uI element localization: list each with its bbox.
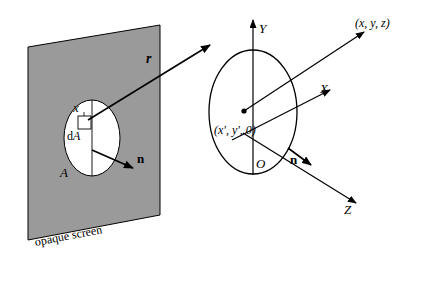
label-origin-normal: n (290, 153, 297, 166)
label-x-coordinate: x (73, 101, 79, 114)
area-element-dA (78, 116, 91, 129)
label-origin-O: O (256, 157, 265, 170)
label-axis-Y: Y (259, 22, 266, 35)
label-dA: dA (67, 130, 80, 142)
ray-to-field-point (244, 32, 364, 111)
label-screen-normal: n (137, 152, 144, 165)
figure-canvas: x dA A n r opaque screen Y X Z O n (x', … (0, 0, 425, 283)
opaque-screen-group (28, 25, 210, 240)
label-aperture-area: A (60, 166, 68, 179)
coordinate-system-group (209, 20, 364, 203)
label-field-point: (x, y, z) (355, 17, 390, 29)
label-source-point: (x', y', 0) (214, 124, 256, 136)
label-axis-X: X (320, 82, 328, 95)
label-ray-r: r (146, 52, 151, 66)
label-axis-Z: Z (344, 203, 351, 216)
